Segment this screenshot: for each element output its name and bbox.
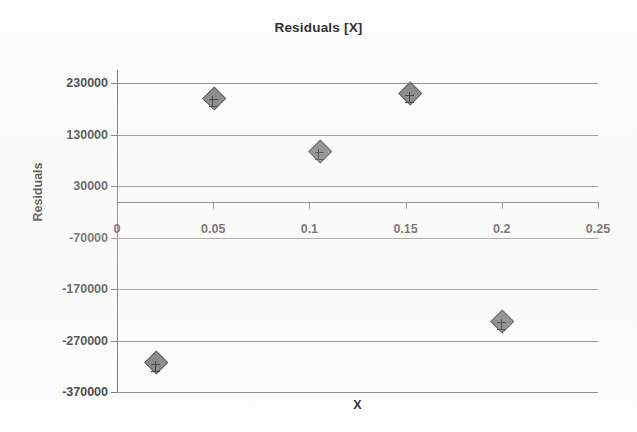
x-axis-title: X	[117, 398, 598, 412]
error-bar-cap-bottom	[405, 102, 414, 103]
x-axis-tick-label: 0.2	[493, 222, 510, 236]
x-axis-tick-label: 0.15	[393, 222, 417, 236]
y-axis-tick-label: -270000	[4, 334, 108, 348]
y-axis-tick-label: 230000	[4, 76, 108, 90]
y-axis-tick-label: -170000	[4, 282, 108, 296]
data-point-marker	[146, 352, 165, 371]
x-axis-line	[117, 202, 598, 203]
gridline	[117, 186, 598, 187]
gridline	[117, 238, 598, 239]
error-bar-cap-bottom	[209, 106, 218, 107]
data-point-marker	[310, 140, 329, 159]
data-point-marker	[400, 83, 419, 102]
error-bar-cap-top	[497, 322, 506, 323]
x-axis-tick	[309, 202, 310, 209]
y-axis-tick-label: 130000	[4, 128, 108, 142]
x-axis-tick	[598, 202, 599, 209]
x-axis-tick	[502, 202, 503, 209]
error-bar-cap-bottom	[497, 329, 506, 330]
plot-area	[117, 83, 598, 392]
data-point-marker	[204, 87, 223, 106]
gridline	[117, 341, 598, 342]
x-axis-tick	[213, 202, 214, 209]
chart-container: Residuals [X] Residuals 2300001300003000…	[0, 0, 637, 432]
error-bar-cap-top	[405, 95, 414, 96]
x-axis-tick-label: 0.25	[586, 222, 610, 236]
y-axis-tick-label: -370000	[4, 385, 108, 399]
y-axis-tick-label: 30000	[4, 179, 108, 193]
x-axis-tick-label: 0.05	[201, 222, 225, 236]
gridline	[117, 135, 598, 136]
gridline	[117, 83, 598, 84]
x-axis-tick-label: 0.1	[301, 222, 318, 236]
error-bar-cap-top	[209, 99, 218, 100]
error-bar-cap-top	[315, 152, 324, 153]
data-point-marker	[492, 310, 511, 329]
error-bar-cap-bottom	[151, 371, 160, 372]
gridline	[117, 392, 598, 393]
gridline	[117, 289, 598, 290]
error-bar-cap-bottom	[315, 159, 324, 160]
error-bar-cap-top	[151, 364, 160, 365]
y-axis-tick-labels: 23000013000030000-70000-170000-270000-37…	[0, 0, 108, 432]
x-axis-tick-label: 0	[114, 222, 121, 236]
y-axis-tick-label: -70000	[4, 231, 108, 245]
x-axis-tick	[406, 202, 407, 209]
